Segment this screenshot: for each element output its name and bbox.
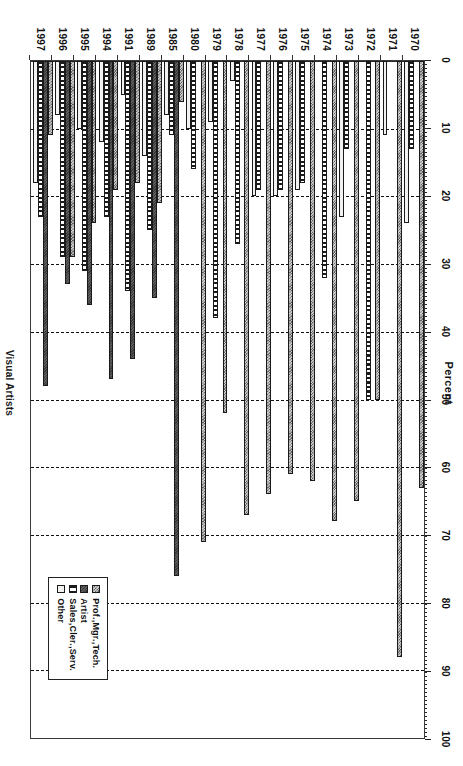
category-axis-label: 1972 (365, 28, 376, 58)
bar (109, 61, 114, 379)
bar (288, 61, 293, 474)
category-axis-label: 1974 (321, 28, 332, 58)
value-axis-tick-label: 90 (440, 666, 451, 677)
legend-item: Other (57, 585, 67, 671)
category-axis-cell: 1974 (315, 0, 337, 58)
bar (266, 61, 271, 494)
category-axis-label: 1994 (101, 28, 112, 58)
bar (397, 61, 402, 657)
bar (142, 61, 147, 156)
gridline (31, 400, 424, 401)
category-axis-label: 1985 (167, 28, 178, 58)
bar (169, 61, 174, 135)
category-axis-label: 1989 (145, 28, 156, 58)
value-axis-tick (425, 60, 431, 61)
bar (409, 61, 414, 149)
category-axis-cell: 1976 (271, 0, 293, 58)
bar (208, 61, 213, 122)
bar (295, 61, 300, 190)
bar (383, 61, 388, 135)
bar (339, 61, 344, 217)
bar (152, 61, 157, 298)
bar (366, 61, 371, 400)
category-axis: 1970197119721973197419751976197719781979… (30, 0, 425, 60)
legend-item: Sales,Cler.,Serv. (68, 585, 78, 671)
bar (130, 61, 135, 359)
bar (77, 61, 82, 129)
category-axis-label: 1975 (299, 28, 310, 58)
bar (256, 61, 261, 190)
bar (332, 61, 337, 521)
category-axis-label: 1979 (211, 28, 222, 58)
bar (147, 61, 152, 230)
bar (33, 61, 38, 183)
category-axis-label: 1997 (35, 28, 46, 58)
bar (191, 61, 196, 169)
value-axis-tick-label: 0 (440, 57, 451, 63)
category-axis-cell: 1995 (74, 0, 96, 58)
bar (186, 61, 191, 129)
chart-title: Visual Artists (4, 0, 15, 766)
value-axis-tick (425, 332, 431, 333)
bar (375, 61, 380, 400)
value-axis-tick-label: 40 (440, 326, 451, 337)
category-axis-cell: 1978 (228, 0, 250, 58)
bar (419, 61, 424, 488)
bar (344, 61, 349, 149)
category-axis-cell: 1997 (30, 0, 52, 58)
category-axis-label: 1980 (189, 28, 200, 58)
legend-swatch-artist-icon (81, 585, 89, 593)
category-axis-cell: 1975 (293, 0, 315, 58)
bar (174, 61, 179, 576)
value-axis-tick-label: 30 (440, 258, 451, 269)
value-axis-tick (425, 739, 431, 740)
bar (92, 61, 97, 223)
bar (43, 61, 48, 386)
category-axis-label: 1973 (343, 28, 354, 58)
category-axis-cell: 1970 (403, 0, 425, 58)
value-axis-tick (425, 535, 431, 536)
category-axis-label: 1976 (277, 28, 288, 58)
value-axis-tick-label: 100 (440, 731, 451, 748)
bar (223, 61, 228, 413)
category-axis-cell: 1985 (162, 0, 184, 58)
value-axis-tick (425, 671, 431, 672)
bar (70, 61, 75, 257)
legend-label: Other (57, 598, 67, 623)
category-axis-cell: 1977 (249, 0, 271, 58)
bar (252, 61, 257, 196)
category-axis-label: 1971 (387, 28, 398, 58)
bar (354, 61, 359, 501)
value-axis-tick-label: 70 (440, 530, 451, 541)
bar (125, 61, 130, 291)
chart-legend: Prof.,Mgr.,Tech. Artist Sales,Cler.,Serv… (48, 577, 109, 680)
bar (157, 61, 162, 203)
bar-chart-figure: Percent 0102030405060708090100 197019711… (0, 0, 463, 766)
value-axis-tick (425, 467, 431, 468)
value-axis-tick-label: 50 (440, 394, 451, 405)
legend-item: Prof.,Mgr.,Tech. (91, 585, 101, 671)
category-axis-label: 1970 (409, 28, 420, 58)
chart-figure-rotor: Percent 0102030405060708090100 197019711… (0, 0, 463, 766)
bar (48, 61, 53, 135)
bar (230, 61, 235, 81)
bar (65, 61, 70, 284)
value-axis-tick (425, 603, 431, 604)
bar (121, 61, 126, 95)
category-axis-label: 1996 (57, 28, 68, 58)
bar (404, 61, 409, 223)
gridline (31, 535, 424, 536)
bar (113, 61, 118, 190)
bar (60, 61, 65, 257)
category-axis-cell: 1996 (52, 0, 74, 58)
category-axis-label: 1991 (123, 28, 134, 58)
value-axis-title: Percent (443, 0, 455, 766)
category-axis-cell: 1991 (118, 0, 140, 58)
value-axis-tick (425, 196, 431, 197)
legend-swatch-other-icon (58, 585, 66, 593)
value-axis-tick (425, 128, 431, 129)
bar (99, 61, 104, 142)
bar (104, 61, 109, 217)
value-axis-tick-label: 60 (440, 462, 451, 473)
legend-label: Artist (80, 598, 90, 623)
